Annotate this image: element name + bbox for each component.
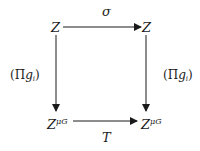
node-bottom-right: ZμG	[141, 115, 162, 131]
node-top-left: Z	[51, 21, 60, 34]
g-symbol: g	[25, 68, 33, 82]
node-base: Z	[142, 20, 151, 35]
label-right-product: (Πgi)	[163, 69, 193, 85]
label-sigma: σ	[102, 5, 111, 18]
node-top-right: Z	[142, 21, 151, 34]
label-left-product: (Πgi)	[10, 69, 40, 85]
node-superscript: μG	[150, 117, 162, 126]
node-superscript: μG	[56, 117, 68, 126]
node-base: Z	[47, 117, 56, 132]
node-bottom-left: ZμG	[47, 115, 68, 131]
g-symbol: g	[178, 68, 186, 82]
node-base: Z	[141, 117, 150, 132]
paren-close: )	[35, 68, 40, 82]
pi-symbol: Π	[168, 68, 178, 82]
paren-close: )	[188, 68, 193, 82]
node-base: Z	[51, 20, 60, 35]
pi-symbol: Π	[15, 68, 25, 82]
label-T: T	[102, 131, 111, 144]
